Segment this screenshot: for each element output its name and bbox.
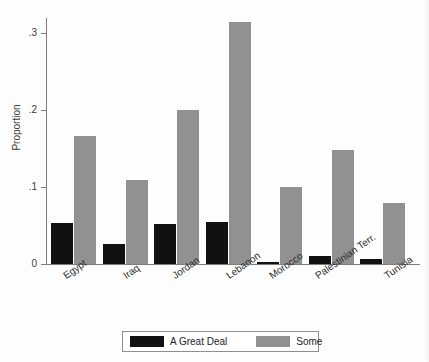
y-tick-mark [41, 264, 47, 265]
y-tick-label: .3 [29, 28, 37, 38]
y-tick-label: 0 [31, 259, 37, 269]
gray-swatch-icon [256, 336, 290, 347]
y-axis-line [46, 18, 47, 265]
chart-legend: A Great Deal Some [122, 331, 319, 352]
legend-label-a-great-deal: A Great Deal [170, 336, 227, 347]
y-axis-title: Proportion [11, 93, 22, 163]
bar-lebanon-a-great-deal [206, 222, 228, 264]
y-tick-mark [41, 187, 47, 188]
page-edge-shadow [425, 0, 429, 362]
legend-label-some: Some [296, 336, 322, 347]
black-swatch-icon [130, 336, 164, 347]
bar-lebanon-some [229, 22, 251, 264]
bar-jordan-some [177, 110, 199, 264]
y-tick-label: .2 [29, 105, 37, 115]
bar-morocco-a-great-deal [257, 262, 279, 264]
bar-tunisia-a-great-deal [360, 259, 382, 264]
legend-item-some: Some [249, 336, 322, 347]
y-tick-mark [41, 33, 47, 34]
y-tick-label: .1 [29, 182, 37, 192]
bar-tunisia-some [383, 203, 405, 264]
bar-iraq-a-great-deal [103, 244, 125, 264]
bar-chart-plot-area: 0.1.2.3 Proportion EgyptIraqJordanLebano… [0, 0, 429, 362]
bar-iraq-some [126, 180, 148, 264]
bar-egypt-a-great-deal [51, 223, 73, 264]
legend-item-a-great-deal: A Great Deal [123, 336, 227, 347]
bar-jordan-a-great-deal [154, 224, 176, 264]
y-tick-mark [41, 110, 47, 111]
chart-screenshot: 0.1.2.3 Proportion EgyptIraqJordanLebano… [0, 0, 429, 362]
bar-egypt-some [74, 136, 96, 264]
page-bleed-text [2, 350, 242, 362]
